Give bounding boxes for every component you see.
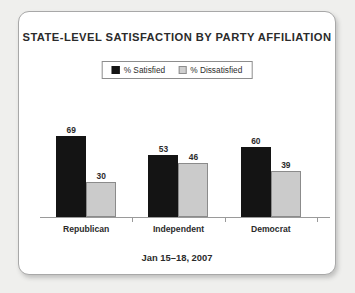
bar-value-democrat-satisfied: 60 — [236, 136, 276, 146]
bar-wrap-republican-dissatisfied: 30 — [86, 100, 116, 217]
bar-democrat-dissatisfied — [271, 171, 301, 217]
x-axis-tick-2 — [225, 218, 226, 222]
x-axis-category-labels: Republican Independent Democrat — [40, 224, 317, 234]
legend-item-satisfied: % Satisfied — [112, 65, 166, 75]
x-axis-tick-3 — [317, 218, 318, 222]
bar-value-democrat-dissatisfied: 39 — [266, 160, 306, 170]
bar-value-republican-satisfied: 69 — [51, 125, 91, 135]
bar-independent-satisfied — [148, 155, 178, 217]
bar-independent-dissatisfied — [178, 163, 208, 217]
legend-item-dissatisfied: % Dissatisfied — [178, 65, 242, 75]
bar-group-republican: 69 30 — [40, 100, 132, 217]
legend-swatch-satisfied-icon — [112, 66, 120, 74]
bar-group-democrat: 60 39 — [225, 100, 317, 217]
chart-legend: % Satisfied % Dissatisfied — [102, 61, 253, 79]
bar-wrap-independent-dissatisfied: 46 — [178, 100, 208, 217]
bar-group-independent: 53 46 — [132, 100, 224, 217]
bar-republican-dissatisfied — [86, 182, 116, 217]
bar-democrat-satisfied — [241, 147, 271, 217]
chart-card: STATE-LEVEL SATISFACTION BY PARTY AFFILI… — [18, 11, 336, 275]
bar-wrap-republican-satisfied: 69 — [56, 100, 86, 217]
bar-value-republican-dissatisfied: 30 — [81, 171, 121, 181]
x-axis-label-democrat: Democrat — [225, 224, 317, 234]
bar-groups: 69 30 53 46 — [40, 100, 317, 217]
plot-area: 69 30 53 46 — [40, 100, 317, 217]
legend-swatch-dissatisfied-icon — [178, 66, 186, 74]
legend-label-dissatisfied: % Dissatisfied — [190, 65, 242, 75]
x-axis-tick-1 — [132, 218, 133, 222]
x-axis-label-republican: Republican — [40, 224, 132, 234]
bar-wrap-democrat-satisfied: 60 — [241, 100, 271, 217]
chart-footnote: Jan 15–18, 2007 — [19, 252, 335, 263]
bar-value-independent-dissatisfied: 46 — [173, 152, 213, 162]
legend-label-satisfied: % Satisfied — [124, 65, 166, 75]
x-axis-label-independent: Independent — [132, 224, 224, 234]
page-background: STATE-LEVEL SATISFACTION BY PARTY AFFILI… — [0, 0, 355, 293]
x-axis-line — [40, 217, 330, 218]
chart-title: STATE-LEVEL SATISFACTION BY PARTY AFFILI… — [19, 31, 335, 43]
bar-wrap-democrat-dissatisfied: 39 — [271, 100, 301, 217]
